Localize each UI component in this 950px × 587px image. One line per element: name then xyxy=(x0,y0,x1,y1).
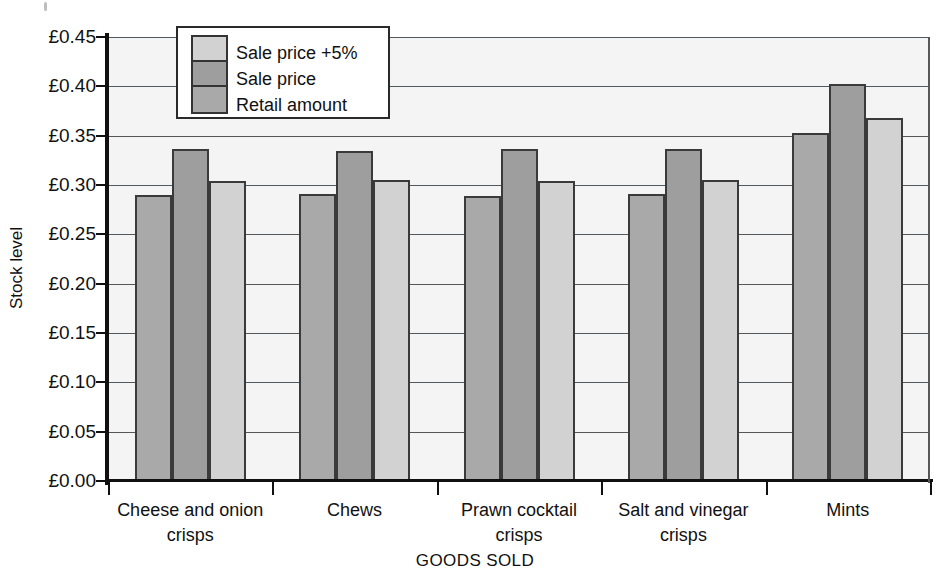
x-axis-tick-mark xyxy=(930,482,932,495)
bar xyxy=(665,149,702,481)
bar xyxy=(209,181,246,481)
chart-legend: Sale price +5%Sale priceRetail amount xyxy=(176,26,390,119)
x-axis-tick-mark xyxy=(601,482,603,495)
x-axis-category-label-line: Chews xyxy=(262,498,446,523)
y-axis-tick-label: £0.05 xyxy=(24,422,96,441)
bar xyxy=(464,196,501,481)
x-axis-category-label-line: Prawn cocktail xyxy=(427,498,611,523)
bar xyxy=(829,84,866,481)
y-axis-tick-label: £0.30 xyxy=(24,175,96,194)
legend-swatch-stack xyxy=(191,35,228,114)
y-axis-tick-label: £0.20 xyxy=(24,274,96,293)
x-axis-category-label: Chews xyxy=(262,498,446,523)
y-axis-tick-label: £0.25 xyxy=(24,224,96,243)
bar xyxy=(135,195,172,481)
y-axis-tick-labels: £0.00£0.05£0.10£0.15£0.20£0.25£0.30£0.35… xyxy=(8,0,96,587)
y-axis-tick-label: £0.10 xyxy=(24,372,96,391)
legend-label: Retail amount xyxy=(236,96,347,114)
bar xyxy=(501,149,538,481)
chart-screenshot: Stock level £0.00£0.05£0.10£0.15£0.20£0.… xyxy=(0,0,950,587)
y-axis-tick-mark xyxy=(96,332,109,334)
y-axis-tick-label: £0.35 xyxy=(24,126,96,145)
y-axis-spine xyxy=(105,33,109,485)
x-axis-category-label-line: Mints xyxy=(756,498,940,523)
legend-label: Sale price xyxy=(236,70,316,88)
x-axis-spine xyxy=(105,479,933,482)
x-axis-category-label: Mints xyxy=(756,498,940,523)
bar xyxy=(172,149,209,481)
x-axis-category-label-line: crisps xyxy=(98,523,282,548)
bar xyxy=(792,133,829,481)
y-axis-tick-label: £0.15 xyxy=(24,323,96,342)
x-axis-category-label-line: crisps xyxy=(427,523,611,548)
y-axis-tick-label: £0.00 xyxy=(24,471,96,490)
x-axis-tick-mark xyxy=(272,482,274,495)
x-axis-category-label-line: Cheese and onion xyxy=(98,498,282,523)
bar xyxy=(373,180,410,481)
plot-right-edge xyxy=(928,37,930,483)
legend-swatch xyxy=(193,37,226,62)
y-axis-tick-mark xyxy=(96,381,109,383)
y-axis-tick-mark xyxy=(96,431,109,433)
x-axis-tick-mark xyxy=(766,482,768,495)
bar xyxy=(866,118,903,481)
x-axis-tick-mark xyxy=(437,482,439,495)
legend-swatch xyxy=(193,62,226,87)
legend-label: Sale price +5% xyxy=(236,44,358,62)
y-axis-tick-mark xyxy=(96,135,109,137)
bar xyxy=(336,151,373,481)
y-axis-tick-mark xyxy=(96,480,109,482)
bar xyxy=(702,180,739,481)
x-axis-title: GOODS SOLD xyxy=(0,551,950,571)
x-axis-category-label-line: Salt and vinegar xyxy=(591,498,775,523)
y-axis-tick-mark xyxy=(96,85,109,87)
y-axis-tick-label: £0.45 xyxy=(24,27,96,46)
bar xyxy=(538,181,575,481)
y-axis-tick-mark xyxy=(96,36,109,38)
x-axis-category-label: Prawn cocktailcrisps xyxy=(427,498,611,548)
x-axis-category-label: Salt and vinegarcrisps xyxy=(591,498,775,548)
legend-swatch xyxy=(193,87,226,112)
y-axis-tick-mark xyxy=(96,184,109,186)
y-axis-tick-label: £0.40 xyxy=(24,76,96,95)
bar xyxy=(299,194,336,481)
x-axis-category-label-line: crisps xyxy=(591,523,775,548)
bar xyxy=(628,194,665,481)
y-axis-tick-mark xyxy=(96,283,109,285)
x-axis-tick-mark xyxy=(108,482,110,495)
x-axis-category-label: Cheese and onioncrisps xyxy=(98,498,282,548)
y-axis-tick-mark xyxy=(96,233,109,235)
